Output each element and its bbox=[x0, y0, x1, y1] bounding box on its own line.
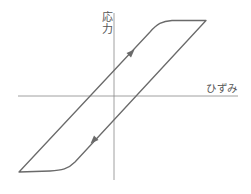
hysteresis-diagram bbox=[0, 0, 251, 194]
y-axis-label: 応 力 bbox=[101, 12, 113, 36]
arrow-down-icon bbox=[91, 136, 99, 144]
y-axis-label-char-2: 力 bbox=[101, 24, 113, 36]
x-axis-label: ひずみ bbox=[206, 82, 238, 94]
